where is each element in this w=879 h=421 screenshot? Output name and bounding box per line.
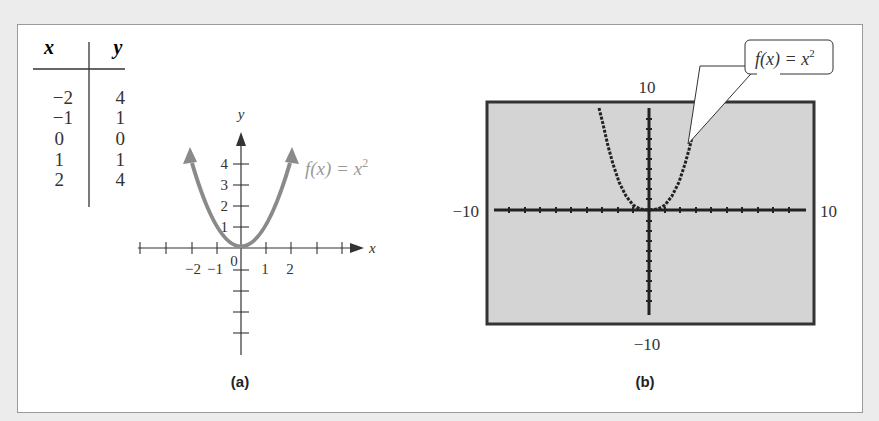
table-cell-y: 4 bbox=[116, 169, 126, 190]
x-tick-label: −2 bbox=[185, 261, 201, 277]
window-xmin: −10 bbox=[452, 202, 479, 221]
table-header-y: y bbox=[112, 36, 123, 59]
table-cell-x: −2 bbox=[53, 87, 73, 108]
y-axis-arrow-icon bbox=[236, 132, 246, 146]
table-cell-x: −1 bbox=[53, 107, 73, 128]
x-tick-label: 2 bbox=[286, 261, 294, 277]
x-tick-label: −1 bbox=[207, 261, 223, 277]
table-cell-y: 1 bbox=[116, 107, 126, 128]
table-cell-y: 1 bbox=[116, 149, 126, 170]
x-tick-label: 1 bbox=[261, 261, 269, 277]
y-axis-label: y bbox=[236, 106, 245, 122]
values-table: x y −2 4 −1 1 0 0 1 1 2 4 bbox=[33, 36, 126, 207]
window-ymax: 10 bbox=[639, 78, 656, 97]
curve-arrow-left-icon bbox=[183, 147, 197, 164]
y-tick-label: 2 bbox=[221, 198, 229, 214]
x-axis-label: x bbox=[368, 240, 376, 256]
window-ymin: −10 bbox=[634, 335, 661, 354]
x-axis-arrow-icon bbox=[350, 243, 364, 253]
y-tick-label: 3 bbox=[221, 177, 229, 193]
curve-arrow-right-icon bbox=[285, 147, 299, 164]
window-xmax: 10 bbox=[820, 202, 837, 221]
graph-a: −2 −1 0 1 2 4 3 2 1 x y f(x) = x2 (a) bbox=[138, 106, 376, 390]
caption-b: (b) bbox=[635, 373, 654, 390]
table-cell-y: 4 bbox=[116, 87, 126, 108]
graph-b: f(x) = x2 10 −10 −10 10 (b) bbox=[452, 40, 837, 390]
y-tick-label: 4 bbox=[221, 156, 229, 172]
table-cell-x: 2 bbox=[55, 169, 65, 190]
function-label-a: f(x) = x2 bbox=[305, 156, 368, 180]
figure-canvas: x y −2 4 −1 1 0 0 1 1 2 4 bbox=[0, 0, 879, 421]
table-header-x: x bbox=[43, 36, 54, 58]
function-label-b: f(x) = x2 bbox=[755, 47, 815, 70]
x-tick-label: 0 bbox=[230, 253, 238, 269]
table-cell-x: 1 bbox=[55, 149, 65, 170]
caption-a: (a) bbox=[231, 373, 249, 390]
table-cell-y: 0 bbox=[116, 128, 126, 149]
table-cell-x: 0 bbox=[55, 128, 65, 149]
